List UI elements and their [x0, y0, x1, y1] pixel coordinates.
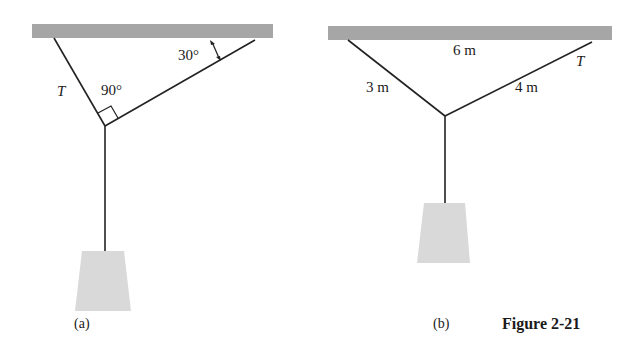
weight-b: [417, 203, 470, 263]
ceiling-angle-label: 30°: [178, 48, 199, 63]
rope-b-left: [348, 40, 445, 116]
figure-caption: Figure 2-21: [502, 316, 580, 332]
panel-b-diagram: [328, 26, 612, 263]
tension-label-a: T: [57, 84, 65, 99]
span-label: 6 m: [453, 43, 476, 58]
ceiling-a: [32, 24, 273, 38]
arrowhead-up-icon: [210, 40, 215, 45]
right-length-label: 4 m: [515, 80, 538, 95]
rope-a-left: [54, 38, 105, 126]
ceiling-b: [328, 26, 612, 40]
panel-a-caption: (a): [74, 317, 90, 331]
figure-canvas: [0, 0, 641, 353]
tension-label-b: T: [576, 54, 584, 69]
panel-a-diagram: [32, 24, 273, 311]
right-angle-label: 90°: [101, 83, 122, 98]
left-length-label: 3 m: [366, 80, 389, 95]
panel-b-caption: (b): [433, 317, 449, 331]
weight-a: [75, 251, 131, 311]
right-angle-marker-a: [98, 106, 118, 118]
